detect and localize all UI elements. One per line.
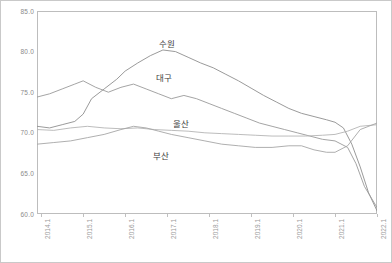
x-tick: [167, 214, 168, 217]
x-tick: [41, 214, 42, 217]
y-tick-label: 65.0: [21, 170, 34, 177]
series-label-daegu: 대구: [156, 71, 172, 83]
x-tick: [293, 214, 294, 217]
x-tick: [251, 214, 252, 217]
x-axis: 2014.12015.12016.12017.12018.12019.12020…: [37, 214, 377, 263]
y-tick-label: 85.0: [21, 8, 34, 15]
series-lines: [37, 11, 377, 214]
series-line: [37, 123, 377, 152]
y-axis: 85.080.075.070.065.060.0: [1, 1, 34, 224]
chart-frame: 85.080.075.070.065.060.0 2014.12015.1201…: [0, 0, 392, 263]
x-tick-label: 2016.1: [128, 219, 135, 239]
series-label-suwon: 수원: [159, 37, 175, 49]
y-tick-label: 70.0: [21, 129, 34, 136]
x-tick: [125, 214, 126, 217]
series-line: [37, 50, 377, 211]
x-tick-label: 2022.1: [380, 219, 387, 239]
x-tick: [83, 214, 84, 217]
x-tick-label: 2018.1: [212, 219, 219, 239]
series-line: [37, 125, 377, 136]
plot-area: [37, 11, 377, 214]
x-tick-label: 2014.1: [44, 219, 51, 239]
y-tick-label: 80.0: [21, 48, 34, 55]
x-tick-label: 2020.1: [296, 219, 303, 239]
y-tick-label: 75.0: [21, 89, 34, 96]
x-tick-label: 2017.1: [170, 219, 177, 239]
x-tick-label: 2021.1: [338, 219, 345, 239]
series-line: [37, 81, 377, 208]
x-tick-label: 2015.1: [86, 219, 93, 239]
y-tick-label: 60.0: [21, 211, 34, 218]
x-tick: [335, 214, 336, 217]
series-label-ulsan: 울산: [173, 117, 189, 129]
series-label-busan: 부산: [153, 149, 169, 161]
x-tick: [377, 214, 378, 217]
x-tick: [209, 214, 210, 217]
x-tick-label: 2019.1: [254, 219, 261, 239]
